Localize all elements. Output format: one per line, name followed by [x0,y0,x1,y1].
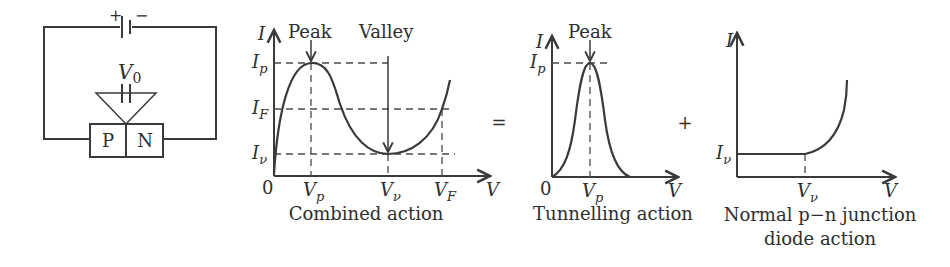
combined-peak-label: Peak [288,21,333,42]
combined-origin-label: 0 [262,177,273,198]
diode-ytick-iv: Iν [715,142,731,167]
equals-sign: = [491,112,506,133]
circuit-wire-right [132,27,216,139]
battery-plus-sign: + [109,6,122,25]
combined-ytick-ip: Ip [251,51,268,76]
diode-caption-line1: Normal p−n junction [724,204,917,225]
n-region-label: N [137,130,153,151]
tunnelling-caption: Tunnelling action [533,203,693,224]
tunnelling-action-chart: Peak I V 0 Ip Vp Tunnelling action [529,21,693,224]
diode-x-axis-label: V [884,180,899,201]
tunnel-diode-diagram: + − V0 P N P [0,0,950,267]
diode-action-chart: I V Iν Vν Normal p−n junction diode acti… [715,30,917,249]
combined-xtick-vf: VF [434,179,457,204]
combined-xtick-vv: Vν [380,179,401,204]
p-region-label: P [102,130,114,151]
combined-caption: Combined action [289,203,444,224]
combined-x-axis-label: V [486,179,501,200]
diode-xtick-vv: Vν [797,180,818,205]
battery-minus-sign: − [135,6,148,25]
bias-voltage-label: V0 [118,60,141,86]
tunnelling-y-axis-label: I [535,31,544,52]
combined-y-axis-label: I [257,23,266,44]
combined-ytick-if: IF [251,97,269,122]
tunnelling-curve [552,63,630,177]
contact-triangle [96,93,156,124]
combined-iv-curve [274,63,450,174]
combined-xtick-vp: Vp [303,179,325,204]
combined-guides [274,63,455,176]
tunnelling-ytick-ip: Ip [529,51,546,76]
circuit-schematic: + − V0 P N [44,6,216,157]
tunnelling-peak-label: Peak [568,21,613,42]
tunnelling-origin-label: 0 [540,178,551,199]
diode-caption-line2: diode action [764,228,877,249]
combined-valley-label: Valley [358,21,414,42]
diode-y-axis-label: I [725,30,734,51]
tunnelling-xtick-vp: Vp [582,180,604,205]
combined-ytick-iv: Iν [251,142,267,167]
circuit-wire-left [44,27,120,139]
combined-action-chart: Peak Valley I V 0 Ip IF Iν Vp Vν VF Comb… [251,21,501,224]
plus-sign: + [677,112,692,133]
tunnelling-x-axis-label: V [668,180,683,201]
diode-curve [737,80,847,154]
battery-icon [122,16,130,38]
